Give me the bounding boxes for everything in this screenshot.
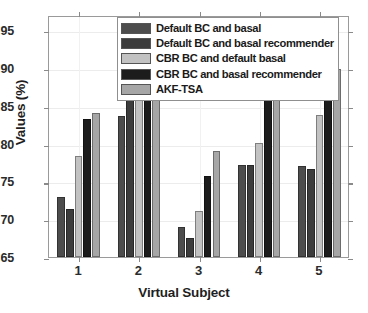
y-tick-mark xyxy=(348,221,353,222)
legend-item[interactable]: CBR BC and default basal xyxy=(121,51,334,66)
y-tick-mark xyxy=(44,183,49,184)
y-tick-mark xyxy=(44,32,49,33)
y-tick-mark xyxy=(44,108,49,109)
legend-item[interactable]: Default BC and basal recommender xyxy=(121,36,334,51)
y-tick-mark xyxy=(44,259,49,260)
bar xyxy=(195,211,203,257)
y-tick-label: 65 xyxy=(0,251,14,265)
legend-label: AKF-TSA xyxy=(156,84,203,95)
y-tick-mark xyxy=(348,146,353,147)
y-tick-label: 80 xyxy=(0,138,14,152)
x-tick-mark xyxy=(200,257,201,262)
y-tick-label: 95 xyxy=(0,24,14,38)
bar xyxy=(307,169,315,257)
legend-label: CBR BC and default basal xyxy=(156,53,286,64)
y-tick-mark xyxy=(348,108,353,109)
legend-item[interactable]: Default BC and basal xyxy=(121,21,334,36)
bar xyxy=(264,100,272,257)
legend-label: Default BC and basal xyxy=(156,23,261,34)
bar xyxy=(135,89,143,257)
legend-label: CBR BC and basal recommender xyxy=(156,69,322,80)
legend-label: Default BC and basal recommender xyxy=(156,38,334,49)
gridline xyxy=(49,108,348,109)
y-tick-label: 90 xyxy=(0,62,14,76)
x-axis-title: Virtual Subject xyxy=(0,285,368,300)
bar xyxy=(238,165,246,257)
bar xyxy=(298,166,306,258)
x-tick-mark xyxy=(260,257,261,262)
bar xyxy=(186,238,194,257)
legend-swatch xyxy=(121,84,151,95)
legend-swatch xyxy=(121,23,151,34)
bar xyxy=(255,143,263,257)
bar xyxy=(316,115,324,257)
y-tick-mark xyxy=(44,70,49,71)
chart-legend: Default BC and basalDefault BC and basal… xyxy=(117,17,339,101)
y-tick-mark xyxy=(44,221,49,222)
bar xyxy=(75,156,83,257)
y-tick-label: 75 xyxy=(0,175,14,189)
y-tick-label: 70 xyxy=(0,213,14,227)
y-tick-mark xyxy=(348,259,353,260)
x-tick-mark xyxy=(139,257,140,262)
x-tick-mark xyxy=(79,12,80,17)
bar xyxy=(83,119,91,257)
legend-item[interactable]: AKF-TSA xyxy=(121,82,334,97)
x-tick-label: 4 xyxy=(239,263,279,278)
bar xyxy=(92,113,100,257)
x-tick-mark xyxy=(320,257,321,262)
y-tick-mark xyxy=(348,70,353,71)
y-tick-mark xyxy=(44,146,49,147)
bar xyxy=(324,85,332,257)
bar xyxy=(273,79,281,257)
bar xyxy=(247,165,255,257)
x-tick-label: 2 xyxy=(118,263,158,278)
x-tick-label: 3 xyxy=(179,263,219,278)
bar xyxy=(126,91,134,257)
legend-item[interactable]: CBR BC and basal recommender xyxy=(121,67,334,82)
bar xyxy=(57,197,65,258)
legend-swatch xyxy=(121,69,151,80)
y-tick-mark xyxy=(348,32,353,33)
x-tick-mark xyxy=(79,257,80,262)
bar xyxy=(118,116,126,257)
bar xyxy=(66,209,74,257)
legend-swatch xyxy=(121,38,151,49)
bar xyxy=(178,227,186,257)
x-tick-label: 5 xyxy=(299,263,339,278)
y-axis-title: Values (%) xyxy=(13,33,28,193)
y-tick-mark xyxy=(348,183,353,184)
bar-chart-figure: Values (%) Virtual Subject 6570758085909… xyxy=(0,0,368,313)
bar xyxy=(204,176,212,257)
bar xyxy=(213,151,221,257)
x-tick-label: 1 xyxy=(58,263,98,278)
legend-swatch xyxy=(121,53,151,64)
y-tick-label: 85 xyxy=(0,100,14,114)
